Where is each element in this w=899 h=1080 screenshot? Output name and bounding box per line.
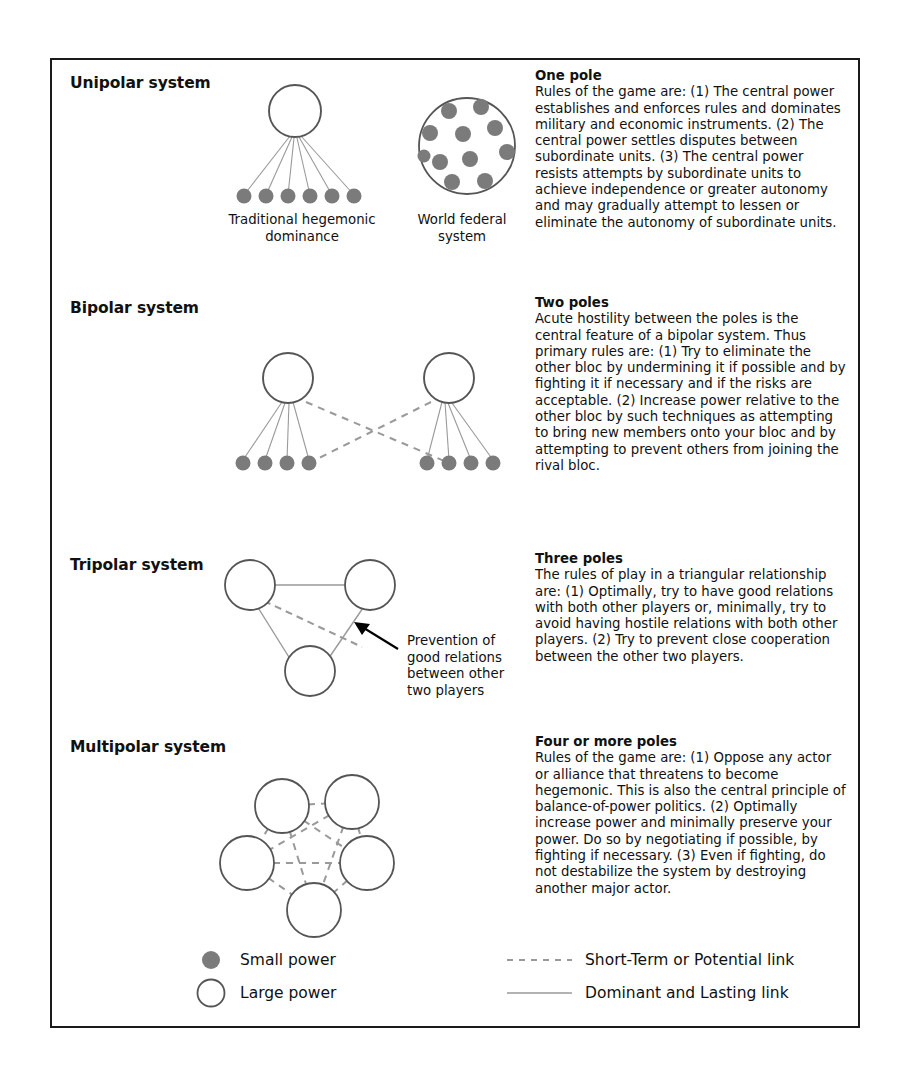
- section-multipolar: Multipolar system: [52, 730, 858, 945]
- world-federal-circle: [419, 98, 515, 194]
- text-body-tripolar: The rules of play in a triangular relati…: [535, 567, 847, 665]
- caption-traditional-hegemonic: Traditional hegemonic dominance: [212, 212, 392, 245]
- large-power-circle: [220, 836, 274, 890]
- caption-text: Traditional hegemonic dominance: [228, 212, 375, 244]
- large-power-circle: [263, 353, 313, 403]
- section-title-tripolar: Tripolar system: [70, 556, 204, 574]
- bipolar-left-small-powers: [236, 456, 317, 471]
- section-bipolar: Bipolar system: [52, 290, 858, 545]
- large-power-circle: [285, 646, 335, 696]
- prevention-arrow: [354, 622, 398, 649]
- bipolar-right-links: [427, 402, 493, 460]
- legend-label-short-term-link: Short-Term or Potential link: [585, 951, 794, 969]
- bipolar-dashed-links: [306, 402, 449, 463]
- section-tripolar: Tripolar system: [52, 545, 858, 740]
- multipolar-svg: [202, 778, 502, 938]
- diagram-multipolar: [202, 778, 502, 938]
- legend-label-dominant-link: Dominant and Lasting link: [585, 984, 789, 1002]
- text-body-unipolar: Rules of the game are: (1) The central p…: [535, 84, 847, 231]
- text-heading-unipolar: One pole: [535, 68, 847, 84]
- text-body-multipolar: Rules of the game are: (1) Oppose any ac…: [535, 750, 847, 897]
- annotation-text: Prevention of good relations between oth…: [407, 633, 504, 698]
- annotation-prevention: Prevention of good relations between oth…: [407, 633, 532, 699]
- large-power-circle: [340, 836, 394, 890]
- figure-frame: Unipolar system: [50, 58, 860, 1028]
- large-power-circle: [287, 883, 341, 937]
- section-title-unipolar: Unipolar system: [70, 74, 211, 92]
- text-unipolar: One pole Rules of the game are: (1) The …: [535, 68, 847, 231]
- hegemonic-small-powers: [237, 189, 362, 204]
- text-heading-tripolar: Three poles: [535, 551, 847, 567]
- diagram-bipolar: [202, 350, 522, 490]
- bipolar-right-small-powers: [420, 456, 501, 471]
- unipolar-svg: [202, 78, 522, 218]
- large-power-circle: [269, 85, 321, 137]
- large-power-circle: [325, 775, 379, 829]
- legend-large-power-icon: [198, 980, 225, 1007]
- text-multipolar: Four or more poles Rules of the game are…: [535, 734, 847, 897]
- large-power-circle: [345, 560, 395, 610]
- text-heading-multipolar: Four or more poles: [535, 734, 847, 750]
- caption-text: World federal system: [417, 212, 506, 244]
- large-power-circle: [225, 560, 275, 610]
- text-bipolar: Two poles Acute hostility between the po…: [535, 295, 847, 474]
- hegemonic-links: [244, 136, 354, 195]
- large-power-circle: [255, 779, 309, 833]
- text-heading-bipolar: Two poles: [535, 295, 847, 311]
- section-title-multipolar: Multipolar system: [70, 738, 226, 756]
- diagram-unipolar: [202, 78, 522, 218]
- section-unipolar: Unipolar system: [52, 60, 858, 290]
- bipolar-left-links: [243, 402, 309, 460]
- text-body-bipolar: Acute hostility between the poles is the…: [535, 311, 847, 474]
- section-title-bipolar: Bipolar system: [70, 299, 199, 317]
- legend-label-small-power: Small power: [240, 951, 336, 969]
- caption-world-federal: World federal system: [407, 212, 517, 245]
- large-power-circle: [424, 353, 474, 403]
- legend-small-power-icon: [202, 951, 220, 969]
- legend: Small power Large power Short-Term or Po…: [52, 945, 858, 1020]
- text-tripolar: Three poles The rules of play in a trian…: [535, 551, 847, 665]
- legend-label-large-power: Large power: [240, 984, 336, 1002]
- bipolar-svg: [202, 350, 522, 490]
